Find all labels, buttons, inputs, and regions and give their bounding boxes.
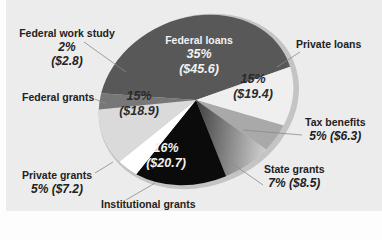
label-federal-grants: Federal grants	[22, 91, 94, 104]
label-name: Tax benefits	[305, 116, 366, 129]
label-value: 5% ($7.2)	[22, 182, 92, 196]
label-institutional-grants: Institutional grants	[101, 198, 196, 211]
label-percent: 2%	[16, 40, 118, 54]
label-federal-work-study: Federal work study 2% ($2.8)	[16, 27, 118, 68]
label-value: 7% ($8.5)	[264, 176, 325, 190]
label-value: ($19.4)	[226, 87, 280, 102]
label-name: Federal grants	[22, 91, 94, 104]
inlabel-federal-loans: Federal loans 35% ($45.6)	[165, 34, 233, 77]
inlabel-private-loans: 15% ($19.4)	[226, 72, 280, 102]
label-percent: 15%	[226, 72, 280, 87]
inlabel-federal-grants: 15% ($18.9)	[112, 89, 166, 119]
leader-private-grants	[95, 162, 113, 173]
label-value: ($20.7)	[138, 156, 194, 171]
label-tax-benefits: Tax benefits 5% ($6.3)	[305, 116, 366, 143]
label-name: Institutional grants	[101, 198, 196, 211]
label-name: Private loans	[296, 38, 361, 51]
label-private-grants: Private grants 5% ($7.2)	[22, 169, 92, 196]
label-private-loans: Private loans	[296, 38, 361, 51]
inlabel-institutional-grants: 16% ($20.7)	[138, 141, 194, 171]
label-name: Federal loans	[165, 34, 233, 47]
label-name: State grants	[264, 163, 325, 176]
label-percent: 15%	[112, 89, 166, 104]
label-percent: 16%	[138, 141, 194, 156]
label-value: ($45.6)	[165, 62, 233, 77]
label-value: ($2.8)	[16, 54, 118, 68]
label-name: Private grants	[22, 169, 92, 182]
label-percent: 35%	[165, 47, 233, 62]
label-value: ($18.9)	[112, 104, 166, 119]
label-state-grants: State grants 7% ($8.5)	[264, 163, 325, 190]
label-name: Federal work study	[16, 27, 118, 40]
label-value: 5% ($6.3)	[305, 129, 366, 143]
